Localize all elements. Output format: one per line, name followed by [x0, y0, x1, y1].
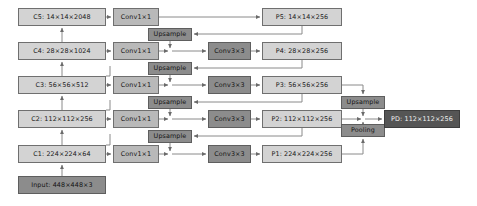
wire-p3-to-upsample: [194, 94, 302, 102]
smooth-conv3x3-p1[interactable]: Conv3×3: [208, 145, 251, 163]
lateral-conv1x1-c3-label: Conv1×1: [121, 82, 151, 88]
pyramid-label-p3: P3: 56×56×256: [276, 82, 329, 88]
backbone-label-c3: C3: 56×56×512: [35, 82, 88, 88]
wire-c2-rail: [106, 100, 110, 110]
pyramid-node-p3[interactable]: P3: 56×56×256: [262, 76, 342, 94]
upsample-p2-to-p1[interactable]: Upsample: [148, 130, 192, 143]
input-label: Input: 448×448×3: [31, 182, 93, 188]
backbone-label-c2: C2: 112×112×256: [31, 116, 93, 122]
wire-p2-to-upsample: [194, 128, 302, 136]
lateral-conv1x1-c5[interactable]: Conv1×1: [113, 8, 159, 26]
upsample-p5-to-p4[interactable]: Upsample: [148, 28, 192, 41]
backbone-node-c2[interactable]: C2: 112×112×256: [18, 110, 106, 128]
smooth-conv3x3-p4[interactable]: Conv3×3: [208, 42, 251, 60]
output-node-pd[interactable]: PD: 112×112×256: [384, 110, 460, 128]
wire-p1-to-final-pooling: [342, 139, 363, 154]
wire-p3-to-final-upsample: [342, 85, 363, 94]
pyramid-label-p4: P4: 28×28×256: [276, 48, 329, 54]
upsample-p4-to-p3-label: Upsample: [154, 65, 187, 71]
smooth-conv3x3-p2[interactable]: Conv3×3: [208, 110, 251, 128]
wire-c1-rail: [106, 134, 110, 145]
backbone-node-c1[interactable]: C1: 224×224×64: [18, 145, 106, 163]
upsample-p3-to-p2[interactable]: Upsample: [148, 96, 192, 109]
wire-p4-to-upsample: [194, 60, 302, 68]
backbone-node-c5[interactable]: C5: 14×14×2048: [18, 8, 106, 26]
final-upsample-label: Upsample: [347, 99, 380, 105]
upsample-p5-to-p4-label: Upsample: [154, 31, 187, 37]
lateral-conv1x1-c2[interactable]: Conv1×1: [113, 110, 159, 128]
pyramid-node-p4[interactable]: P4: 28×28×256: [262, 42, 342, 60]
smooth-conv3x3-p1-label: Conv3×3: [214, 151, 244, 157]
final-pooling-label: Pooling: [351, 127, 375, 133]
fpn-architecture-diagram: C5: 14×14×2048 C4: 28×28×1024 C3: 56×56×…: [0, 0, 477, 206]
lateral-conv1x1-c5-label: Conv1×1: [121, 14, 151, 20]
lateral-conv1x1-c1-label: Conv1×1: [121, 151, 151, 157]
lateral-conv1x1-c4[interactable]: Conv1×1: [113, 42, 159, 60]
input-node[interactable]: Input: 448×448×3: [18, 176, 106, 194]
lateral-conv1x1-c4-label: Conv1×1: [121, 48, 151, 54]
backbone-node-c3[interactable]: C3: 56×56×512: [18, 76, 106, 94]
upsample-p3-to-p2-label: Upsample: [154, 99, 187, 105]
pyramid-node-p5[interactable]: P5: 14×14×256: [262, 8, 342, 26]
wire-p5-to-upsample: [194, 26, 302, 34]
pyramid-label-p2: P2: 112×112×256: [272, 116, 333, 122]
pyramid-node-p2[interactable]: P2: 112×112×256: [262, 110, 342, 128]
pyramid-node-p1[interactable]: P1: 224×224×256: [262, 145, 342, 163]
wire-c3-rail: [106, 66, 110, 76]
lateral-conv1x1-c2-label: Conv1×1: [121, 116, 151, 122]
smooth-conv3x3-p4-label: Conv3×3: [214, 48, 244, 54]
smooth-conv3x3-p3-label: Conv3×3: [214, 82, 244, 88]
pyramid-label-p1: P1: 224×224×256: [272, 151, 333, 157]
backbone-node-c4[interactable]: C4: 28×28×1024: [18, 42, 106, 60]
lateral-conv1x1-c1[interactable]: Conv1×1: [113, 145, 159, 163]
backbone-label-c1: C1: 224×224×64: [33, 151, 90, 157]
lateral-conv1x1-c3[interactable]: Conv1×1: [113, 76, 159, 94]
backbone-label-c5: C5: 14×14×2048: [33, 14, 90, 20]
backbone-label-c4: C4: 28×28×1024: [33, 48, 90, 54]
upsample-p4-to-p3[interactable]: Upsample: [148, 62, 192, 75]
smooth-conv3x3-p3[interactable]: Conv3×3: [208, 76, 251, 94]
smooth-conv3x3-p2-label: Conv3×3: [214, 116, 244, 122]
final-pooling[interactable]: Pooling: [341, 124, 385, 137]
final-upsample[interactable]: Upsample: [341, 96, 385, 109]
upsample-p2-to-p1-label: Upsample: [154, 133, 187, 139]
output-label-pd: PD: 112×112×256: [391, 116, 453, 122]
pyramid-label-p5: P5: 14×14×256: [276, 14, 329, 20]
